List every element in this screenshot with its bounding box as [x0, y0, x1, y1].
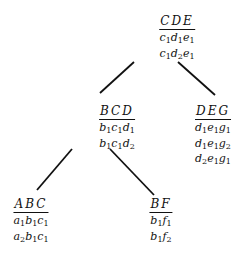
node-row: b1f1 [149, 213, 172, 229]
node-row: d1e1g2 [195, 136, 231, 152]
node-row: d2e1g1 [195, 151, 231, 167]
node-cde: CDEc1d1e1c1d2e1 [159, 10, 195, 61]
node-row: a1b1c1 [13, 213, 48, 229]
node-bf: BFb1f1b1f2 [149, 193, 172, 244]
node-row: c1d2e1 [159, 46, 195, 62]
node-header: ABC [14, 198, 49, 213]
edge-cde-deg [178, 62, 215, 95]
node-row: b1c1d2 [99, 136, 135, 152]
node-row: b1c1d1 [99, 120, 135, 136]
node-header: CDE [159, 15, 195, 30]
edge-bcd-bf [110, 149, 154, 195]
node-abc: ABCa1b1c1a2b1c1 [13, 193, 48, 244]
node-header: BF [149, 198, 172, 213]
node-row: b1f2 [149, 229, 172, 245]
node-row: d1e1g1 [195, 120, 231, 136]
node-header: DEG [195, 105, 231, 120]
node-row: a2b1c1 [13, 229, 48, 245]
node-bcd: BCDb1c1d1b1c1d2 [99, 100, 135, 151]
node-row: c1d1e1 [159, 30, 195, 46]
node-header: BCD [99, 105, 135, 120]
edge-cde-bcd [100, 62, 134, 93]
node-deg: DEGd1e1g1d1e1g2d2e1g1 [195, 100, 231, 167]
edge-bcd-abc [37, 149, 72, 190]
